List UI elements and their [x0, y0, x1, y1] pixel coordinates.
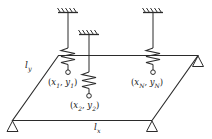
spring-2-coordinate-label: (x2, y2): [70, 101, 99, 112]
lx-subscript: x: [97, 127, 101, 135]
spring-N-coil: [146, 48, 160, 65]
spring-N-coordinate-label: (xN, yN): [131, 78, 163, 89]
paren-close: ): [74, 77, 77, 87]
dimension-label-ly: ly: [25, 61, 32, 72]
plate-outline: [13, 56, 199, 121]
ly-subscript: y: [28, 65, 32, 73]
spring-N-attachment-node: [151, 70, 156, 75]
spring-1-coordinate-label: (x1, y1): [48, 78, 77, 89]
dimension-label-lx: lx: [94, 123, 101, 134]
support-bottom-left: [7, 121, 18, 132]
spring-2-group: [79, 30, 100, 98]
paren-close: ): [160, 77, 163, 87]
spring-1-attachment-node: [66, 70, 71, 75]
spring-1-coil: [61, 48, 75, 65]
paren-close: ): [96, 100, 99, 110]
spring-N-group: [143, 8, 164, 74]
support-bottom-right: [147, 121, 158, 132]
spring-N-ground-support-icon: [143, 8, 164, 13]
spring-1-group: [58, 8, 79, 74]
spring-1-ground-support-icon: [58, 8, 79, 13]
spring-2-ground-support-icon: [79, 30, 100, 35]
spring-2-coil: [82, 72, 96, 89]
figure-canvas: (x1, y1) (x2, y2) (xN, yN) ly lx: [0, 0, 212, 139]
spring-2-attachment-node: [87, 94, 92, 99]
